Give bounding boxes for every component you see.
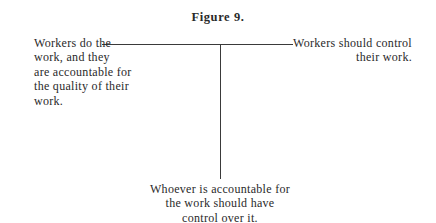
node-right-line: their work. bbox=[272, 50, 412, 64]
node-left-line: work, and they bbox=[34, 50, 154, 64]
node-left-line: are accountable for bbox=[34, 65, 154, 79]
figure-title: Figure 9. bbox=[0, 10, 436, 25]
node-bottom-line: Whoever is accountable for bbox=[140, 182, 300, 196]
node-right-line: Workers should control bbox=[272, 36, 412, 50]
node-bottom-line: control over it. bbox=[140, 211, 300, 223]
node-left-line: Workers do the bbox=[34, 36, 154, 50]
node-left-line: the quality of their bbox=[34, 79, 154, 93]
node-left-line: work. bbox=[34, 94, 154, 108]
connector-vertical-line bbox=[220, 44, 221, 179]
node-bottom-premise: Whoever is accountable for the work shou… bbox=[140, 182, 300, 223]
node-left-premise: Workers do the work, and they are accoun… bbox=[34, 36, 154, 108]
node-bottom-line: the work should have bbox=[140, 196, 300, 210]
node-right-conclusion: Workers should control their work. bbox=[272, 36, 412, 65]
